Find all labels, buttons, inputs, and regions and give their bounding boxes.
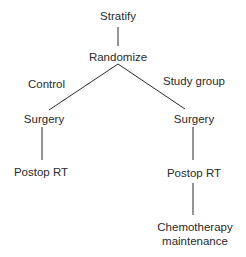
- node-chemotherapy-maintenance: Chemotherapy maintenance: [157, 220, 232, 248]
- node-stratify: Stratify: [100, 9, 136, 23]
- node-surgery-study: Surgery: [174, 112, 214, 126]
- branch-label-control: Control: [28, 77, 65, 91]
- chemo-line-2: maintenance: [157, 234, 232, 248]
- node-randomize: Randomize: [89, 50, 147, 64]
- connector-lines: [0, 0, 246, 257]
- node-surgery-control: Surgery: [24, 112, 64, 126]
- trial-design-diagram: Stratify Randomize Control Study group S…: [0, 0, 246, 257]
- chemo-line-1: Chemotherapy: [157, 220, 232, 234]
- branch-label-study-group: Study group: [163, 74, 225, 88]
- node-postop-rt-control: Postop RT: [14, 165, 68, 179]
- node-postop-rt-study: Postop RT: [167, 166, 221, 180]
